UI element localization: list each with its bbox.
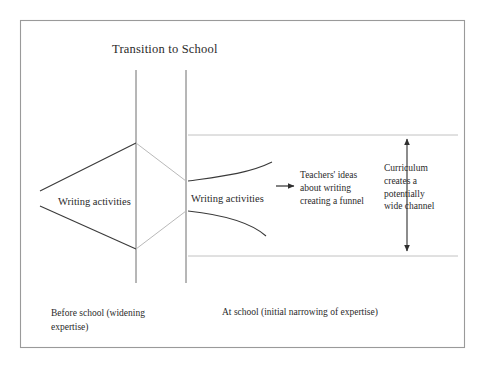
curriculum-channel-note: Curriculum creates a potentially wide ch… [384,162,434,213]
teachers-ideas-note: Teachers' ideas about writing creating a… [300,169,364,207]
funnel-lower-curve [188,211,266,236]
funnel-upper-curve [188,162,272,181]
writing-activities-left-label: Writing activities [58,196,131,209]
at-school-caption: At school (initial narrowing of expertis… [222,307,378,319]
converge-upper-line [136,143,186,181]
writing-activities-right-label: Writing activities [191,193,264,206]
converge-lower-line [136,211,186,249]
figure-canvas: Transition to School Writing activities … [0,0,487,370]
wedge-lower-line [40,206,136,249]
wedge-upper-line [40,143,136,191]
figure-title: Transition to School [112,42,218,57]
before-school-caption: Before school (widening expertise) [51,307,145,335]
